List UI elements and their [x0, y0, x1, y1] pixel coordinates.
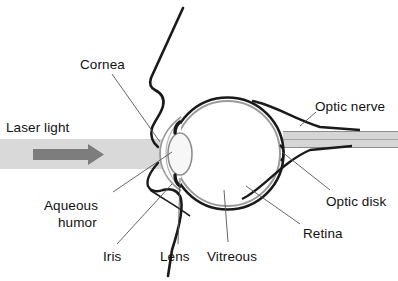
leader-line-optic-disk	[282, 152, 330, 190]
leader-line-retina	[246, 186, 300, 224]
leader-line-iris	[117, 184, 172, 244]
label-aqueous-humor-line2: humor	[58, 215, 97, 230]
eye-diagram: Cornea Laser light Aqueous humor Iris Le…	[0, 0, 398, 281]
label-cornea: Cornea	[80, 57, 125, 72]
label-iris: Iris	[103, 249, 121, 264]
upper-eyelid-contour	[150, 8, 183, 128]
lens-group	[168, 133, 192, 175]
conjunctiva-fold	[150, 190, 190, 216]
optic-nerve-group	[283, 131, 398, 148]
label-optic-nerve: Optic nerve	[315, 99, 385, 114]
label-lens: Lens	[160, 249, 190, 264]
label-vitreous: Vitreous	[207, 249, 257, 264]
leader-line-cornea	[112, 74, 160, 142]
lens-body	[168, 133, 192, 175]
label-aqueous-humor-line1: Aqueous	[44, 198, 98, 213]
label-optic-disk: Optic disk	[326, 194, 386, 209]
label-retina: Retina	[303, 226, 343, 241]
label-laser-light: Laser light	[6, 120, 69, 135]
